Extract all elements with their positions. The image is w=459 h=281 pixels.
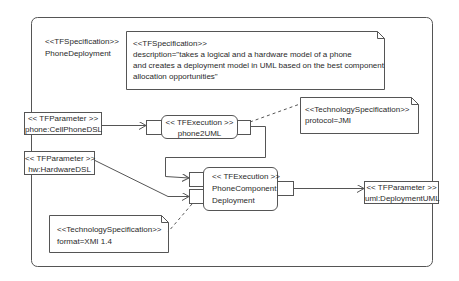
deployment-input-port-hw[interactable] (189, 189, 204, 204)
tech-note-stereotype: <<TechnologySpecification>> (305, 104, 410, 115)
parameter-hw[interactable]: << TFParameter >> hw:HardwareDSL (24, 151, 95, 175)
frame-stereotype: <<TFSpecification>> (45, 36, 119, 48)
execution-stereotype: << TFExecution >> (212, 171, 277, 183)
phone2uml-input-port[interactable] (146, 120, 162, 135)
execution-name-line: Deployment (212, 195, 277, 207)
frame-name: PhoneDeployment (45, 48, 111, 60)
deployment-output-port[interactable] (276, 181, 294, 196)
description-note-line: allocation opportunities" (133, 71, 218, 82)
parameter-stereotype: << TFParameter >> (25, 153, 94, 164)
parameter-name: phone:CellPhoneDSL (25, 124, 101, 135)
parameter-uml[interactable]: << TFParameter >> uml:DeploymentUML (364, 181, 439, 204)
description-note-line: and creates a deployment model in UML ba… (133, 60, 384, 71)
parameter-stereotype: << TFParameter >> (25, 113, 101, 124)
deployment-input-port-phone[interactable] (189, 172, 204, 187)
description-note-line: description="takes a logical and a hardw… (133, 49, 352, 60)
execution-name-line: PhoneComponent (212, 183, 277, 195)
tech-note-value: format=XMI 1.4 (57, 236, 112, 247)
execution-stereotype: << TFExecution >> (162, 117, 237, 128)
execution-phone2uml[interactable]: << TFExecution >> phone2UML (161, 115, 238, 139)
parameter-stereotype: << TFParameter >> (365, 182, 438, 193)
parameter-name: hw:HardwareDSL (25, 164, 94, 175)
tech-note-value: protocol=JMI (305, 115, 351, 126)
tech-note-stereotype: <<TechnologySpecification>> (57, 224, 162, 235)
execution-phone-component-deployment[interactable]: << TFExecution >> PhoneComponent Deploym… (203, 167, 278, 211)
execution-name: phone2UML (162, 128, 237, 139)
phone2uml-output-port[interactable] (236, 120, 251, 135)
parameter-phone[interactable]: << TFParameter >> phone:CellPhoneDSL (24, 112, 102, 135)
parameter-name: uml:DeploymentUML (365, 193, 438, 204)
description-note-stereotype: <<TFSpecification>> (133, 38, 207, 49)
